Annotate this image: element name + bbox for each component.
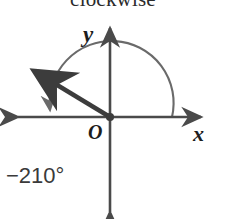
x-axis-label: x xyxy=(193,121,204,147)
angle-sweep-arc xyxy=(50,41,174,117)
origin-label: O xyxy=(88,121,102,144)
terminal-side-ray xyxy=(34,71,110,117)
y-axis-label: y xyxy=(83,22,93,48)
angle-diagram-figure: clockwise y x O −210° xyxy=(0,0,226,219)
angle-measure-label: −210° xyxy=(6,163,64,189)
origin-point xyxy=(106,113,114,121)
